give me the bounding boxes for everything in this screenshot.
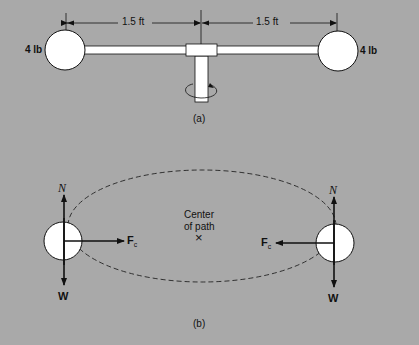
part-a-diagram <box>45 10 358 102</box>
weight-label-right-fbd: W <box>328 292 338 304</box>
weight-label-right: 4 lb <box>360 45 377 56</box>
centripetal-force-label-right: Fc <box>261 236 271 250</box>
normal-force-label-right: N <box>329 183 337 198</box>
center-marker-icon: × <box>195 230 203 245</box>
weight-label-left-fbd: W <box>58 290 68 302</box>
centripetal-force-label-left: Fc <box>127 234 137 248</box>
caption-a: (a) <box>193 113 205 124</box>
normal-force-label-left: N <box>58 181 66 196</box>
dimension-label-left: 1.5 ft <box>122 16 144 27</box>
caption-b: (b) <box>193 318 205 329</box>
rod-right <box>216 46 320 54</box>
center-label-line1: Center <box>184 209 214 220</box>
center-hub <box>186 44 217 56</box>
vertical-shaft <box>195 56 208 102</box>
dimension-label-right: 1.5 ft <box>256 16 278 27</box>
mass-left <box>45 30 85 70</box>
weight-label-left: 4 lb <box>25 44 42 55</box>
rod-left <box>84 46 188 54</box>
mass-right <box>318 31 358 71</box>
